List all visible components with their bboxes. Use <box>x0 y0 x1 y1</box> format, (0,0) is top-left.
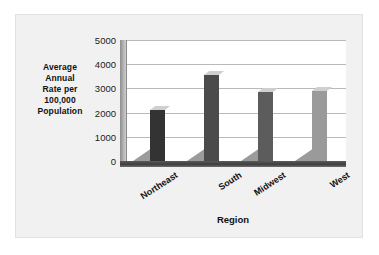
y-tick-2000: 2000 <box>78 109 116 119</box>
plot-floor <box>120 161 346 167</box>
chart-figure: Average Annual Rate per 100,000 Populati… <box>0 0 379 255</box>
bar-midwest[interactable] <box>258 88 273 161</box>
x-axis-title: Region <box>120 214 346 225</box>
bar-west-face <box>312 91 327 161</box>
bar-northeast[interactable] <box>150 106 165 161</box>
gridline-4000 <box>126 64 346 65</box>
y-axis-tick-labels: 5000 4000 3000 2000 1000 0 <box>78 40 116 167</box>
x-tick-west: West <box>294 170 351 212</box>
plot-area <box>120 40 346 167</box>
x-axis-tick-labels: Northeast South Midwest West <box>120 170 346 212</box>
bar-midwest-face <box>258 92 273 161</box>
y-tick-4000: 4000 <box>78 60 116 70</box>
plot-left-wall <box>120 40 126 161</box>
bar-northeast-face <box>150 110 165 161</box>
y-tick-3000: 3000 <box>78 84 116 94</box>
y-tick-0: 0 <box>78 157 116 167</box>
y-tick-5000: 5000 <box>78 36 116 46</box>
x-tick-northeast: Northeast <box>122 170 179 212</box>
gridline-5000 <box>126 40 346 41</box>
y-tick-1000: 1000 <box>78 133 116 143</box>
bar-south[interactable] <box>204 71 219 161</box>
bar-west[interactable] <box>312 87 327 161</box>
bar-south-face <box>204 75 219 161</box>
